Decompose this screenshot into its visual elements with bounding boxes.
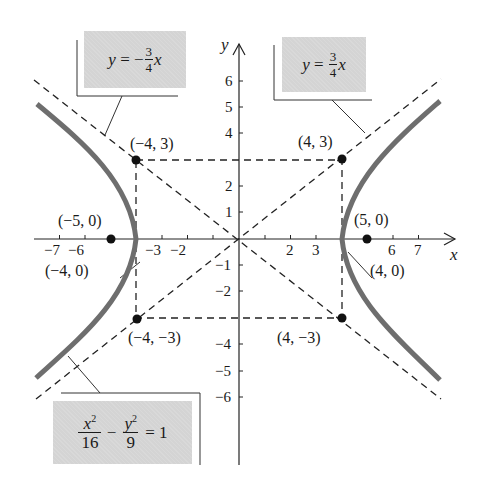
eq-pos-x: x xyxy=(338,55,346,75)
right-branch xyxy=(342,101,440,380)
label-point-m4-m3: (−4, −3) xyxy=(128,330,181,346)
y-tick-p1: 1 xyxy=(225,205,233,220)
x-tick-p2: 2 xyxy=(286,243,294,258)
label-point-5-0: (5, 0) xyxy=(354,212,389,228)
x-tick-m6: −6 xyxy=(68,243,84,258)
eq-hyp-y-exp: 2 xyxy=(132,413,137,424)
eq-pos-denominator: 4 xyxy=(329,64,338,79)
eq-hyp-rhs: = 1 xyxy=(141,423,168,443)
point-m5-0 xyxy=(107,235,116,244)
y-tick-p5: 5 xyxy=(225,100,233,115)
point-m4-m3 xyxy=(133,315,142,324)
label-point-m5-0: (−5, 0) xyxy=(58,213,102,229)
y-tick-p6: 6 xyxy=(225,74,233,89)
y-tick-m2: −2 xyxy=(215,284,231,299)
x-axis-label: x xyxy=(450,246,458,263)
label-point-4-m3: (4, −3) xyxy=(277,330,321,346)
point-4-m3 xyxy=(338,314,347,323)
y-tick-p4: 4 xyxy=(225,126,233,141)
eq-neg-fraction: 3 4 xyxy=(145,45,154,74)
eq-hyp-minus: − xyxy=(102,423,120,443)
eq-neg-denominator: 4 xyxy=(145,59,154,74)
x-tick-m3: −3 xyxy=(145,243,161,258)
label-point-m4-3: (−4, 3) xyxy=(130,136,174,152)
label-point-m4-0: (−4, 0) xyxy=(45,263,89,279)
label-point-4-3: (4, 3) xyxy=(298,134,333,150)
x-tick-m2: −2 xyxy=(170,243,186,258)
y-tick-p2: 2 xyxy=(225,179,233,194)
point-4-3 xyxy=(338,155,347,164)
y-axis-label: y xyxy=(221,36,229,53)
eq-hyp-den-16: 16 xyxy=(78,432,101,451)
eq-pos-y: y xyxy=(302,55,310,75)
y-tick-m5: −5 xyxy=(215,364,231,379)
eq-pos-fraction: 3 4 xyxy=(329,50,338,79)
eq-hyp-x: x xyxy=(84,413,92,432)
equation-box-hyperbola: x2 16 − y2 9 = 1 xyxy=(53,401,192,464)
y-tick-m1: −1 xyxy=(215,258,231,273)
equation-box-negative-asymptote: y = − 3 4 x xyxy=(84,31,186,88)
x-tick-m7: −7 xyxy=(44,243,60,258)
hyperbola-curve xyxy=(36,101,440,380)
point-m4-3 xyxy=(132,156,141,165)
left-branch xyxy=(36,104,136,378)
label-point-4-0: (4, 0) xyxy=(370,263,405,279)
eq-pos-numerator: 3 xyxy=(329,50,338,64)
equation-box-positive-asymptote: y = 3 4 x xyxy=(282,37,366,92)
eq-neg-y: y xyxy=(108,50,116,70)
eq-neg-equals: = − xyxy=(116,50,144,70)
eq-hyp-fraction-y: y2 9 xyxy=(121,414,140,452)
y-tick-m6: −6 xyxy=(215,390,231,405)
eq-hyp-x-exp: 2 xyxy=(91,413,96,424)
eq-hyp-y: y xyxy=(124,413,132,432)
eq-pos-equals: = xyxy=(310,55,328,75)
eq-hyp-fraction-x: x2 16 xyxy=(78,414,101,452)
eq-neg-numerator: 3 xyxy=(145,45,154,59)
x-tick-p3: 3 xyxy=(312,243,320,258)
eq-hyp-den-9: 9 xyxy=(123,432,138,451)
x-tick-p6: 6 xyxy=(388,243,396,258)
eq-neg-x: x xyxy=(154,50,162,70)
point-5-0 xyxy=(363,235,372,244)
y-tick-m4: −4 xyxy=(215,337,231,352)
x-tick-p7: 7 xyxy=(414,243,422,258)
